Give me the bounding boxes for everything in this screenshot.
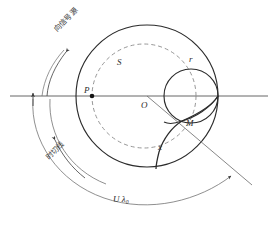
radius-diagonal-line xyxy=(147,96,252,185)
label-arc-bottom: U λ₀ xyxy=(113,194,129,204)
label-x: x xyxy=(157,142,162,152)
label-tangent-line: 时切线 xyxy=(43,138,66,161)
label-signal-source: 向信号源 xyxy=(51,5,79,33)
label-P: P xyxy=(83,85,90,95)
label-r: r xyxy=(189,54,193,64)
point-P-dot xyxy=(90,94,95,99)
guide-arc-outer xyxy=(33,99,231,205)
label-O: O xyxy=(141,100,148,110)
geometry-diagram-svg: S P O r M x U λ₀ 向信号源 时切线 xyxy=(0,0,275,227)
diagram-canvas: S P O r M x U λ₀ 向信号源 时切线 xyxy=(0,0,275,227)
label-M: M xyxy=(185,118,194,128)
label-S: S xyxy=(117,57,122,67)
